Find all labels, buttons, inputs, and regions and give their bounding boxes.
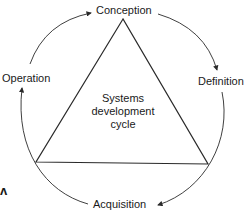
stray-mark: ʌ <box>0 183 7 198</box>
phase-conception: Conception <box>96 4 152 16</box>
center-label-line-1: Systems <box>83 92 163 105</box>
center-label-line-3: cycle <box>83 118 163 131</box>
phase-acquisition: Acquisition <box>93 198 146 210</box>
arc-conception-to-definition <box>158 14 217 70</box>
phase-operation: Operation <box>2 72 50 84</box>
arc-acquisition-to-operation <box>21 88 88 204</box>
center-label-line-2: development <box>83 105 163 118</box>
arc-definition-to-acquisition <box>158 92 224 205</box>
center-label: Systems development cycle <box>83 92 163 131</box>
arc-operation-to-conception <box>30 13 91 64</box>
phase-definition: Definition <box>198 75 244 87</box>
